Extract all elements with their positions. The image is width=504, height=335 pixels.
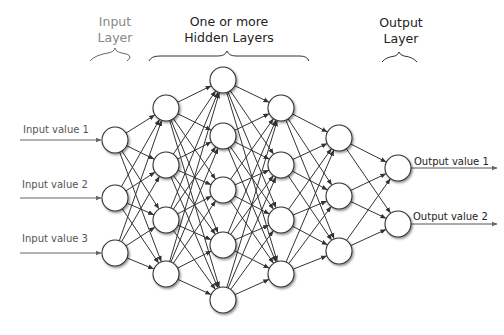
hidden-4-node-1 [326,125,352,151]
connection-arrow-input-2-to-hidden-1-1 [122,177,160,242]
hidden-layers-brace-icon [149,51,309,61]
hidden-layers-header-line2: Hidden Layers [176,30,282,46]
hidden-2-node-5 [210,287,236,313]
input-node-1 [102,127,128,153]
output-layer-brace-icon [382,52,417,62]
connection-arrow-hidden-4-0-to-output-0 [351,144,386,162]
hidden-4-node-2 [326,183,352,209]
output-layer-header: Output Layer [376,15,426,47]
connection-arrow-input-0-to-hidden-1-0 [126,115,155,133]
hidden-3-node-2 [268,152,294,178]
neural-network-diagram [0,0,504,335]
input-layer-header: Input Layer [88,14,142,46]
output-value-2-label: Output value 2 [413,211,488,222]
output-node-2 [385,211,411,237]
connection-arrow-hidden-1-1-to-hidden-2-0 [173,91,215,154]
connection-arrow-hidden-4-0-to-output-1 [346,149,390,213]
output-layer-header-line1: Output [376,15,426,31]
input-layer-brace-icon [90,48,130,61]
layer-braces [90,48,417,62]
hidden-1-node-2 [153,152,179,178]
connection-arrow-hidden-2-3-to-hidden-3-3 [235,251,269,268]
connection-arrow-hidden-3-3-to-hidden-4-2 [293,256,326,269]
hidden-4-node-3 [326,238,352,264]
hidden-layers-header: One or more Hidden Layers [176,14,282,46]
connection-arrow-hidden-3-3-to-hidden-4-1 [289,207,331,264]
hidden-2-node-1 [210,67,236,93]
hidden-2-node-3 [210,177,236,203]
hidden-layers-header-line1: One or more [176,14,282,30]
input-layer-header-line2: Layer [88,30,142,46]
connection-arrow-input-1-to-hidden-1-0 [121,120,159,187]
input-value-1-label: Input value 1 [23,124,89,135]
input-node-2 [102,185,128,211]
connection-arrow-hidden-2-1-to-hidden-3-0 [235,114,269,130]
hidden-2-node-2 [210,123,236,149]
connection-arrow-input-2-to-hidden-1-2 [126,227,155,246]
connection-arrow-hidden-2-4-to-hidden-3-3 [235,280,269,295]
connection-arrow-hidden-4-2-to-output-0 [347,179,391,240]
connection-arrow-input-2-to-hidden-1-3 [127,258,153,269]
hidden-3-node-3 [268,207,294,233]
hidden-1-node-3 [153,207,179,233]
connection-arrow-hidden-2-0-to-hidden-3-0 [235,86,269,102]
connection-arrow-hidden-3-1-to-hidden-4-0 [293,144,327,160]
input-layer-header-line1: Input [88,14,142,30]
connection-arrow-hidden-2-1-to-hidden-3-1 [235,142,269,159]
hidden-3-node-1 [268,95,294,121]
output-node-1 [385,155,411,181]
hidden-1-node-1 [153,95,179,121]
output-layer-header-line2: Layer [376,31,426,47]
hidden-1-node-4 [153,261,179,287]
connection-arrow-hidden-1-0-to-hidden-2-0 [178,86,211,102]
input-node-3 [102,240,128,266]
input-value-2-label: Input value 2 [22,179,88,190]
hidden-2-node-4 [210,232,236,258]
output-value-1-label: Output value 1 [414,156,489,167]
connection-arrow-hidden-1-3-to-hidden-2-0 [170,93,220,262]
hidden-3-node-4 [268,261,294,287]
connection-arrow-hidden-1-3-to-hidden-2-4 [178,279,211,294]
connection-arrow-hidden-4-2-to-output-1 [351,230,386,246]
connection-arrow-hidden-3-1-to-hidden-4-1 [292,171,327,190]
input-value-3-label: Input value 3 [22,233,88,244]
connection-arrow-hidden-3-0-to-hidden-4-0 [293,114,327,132]
connection-arrow-hidden-4-1-to-output-0 [351,174,386,191]
